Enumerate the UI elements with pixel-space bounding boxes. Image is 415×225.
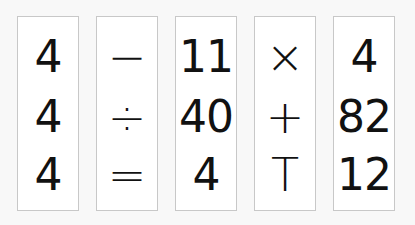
card-1: 4 4 4 <box>17 16 79 211</box>
card-3: 11 40 4 <box>175 16 237 211</box>
card-3-row-3: 4 <box>176 145 236 205</box>
card-3-row-2: 40 <box>176 87 236 147</box>
minus-symbol: − <box>97 27 157 87</box>
card-5-row-3: 12 <box>334 145 394 205</box>
card-1-row-3: 4 <box>18 145 78 205</box>
card-5-row-2: 82 <box>334 87 394 147</box>
equals-symbol: = <box>97 145 157 205</box>
card-5-row-1: 4 <box>334 27 394 87</box>
plus-symbol: + <box>255 87 315 147</box>
card-1-row-2: 4 <box>18 87 78 147</box>
t-symbol: T <box>255 145 315 205</box>
card-1-row-1: 4 <box>18 27 78 87</box>
multiply-symbol: × <box>255 27 315 87</box>
card-4: × + T <box>254 16 316 211</box>
card-2: − ÷ = <box>96 16 158 211</box>
card-5: 4 82 12 <box>333 16 395 211</box>
divide-symbol: ÷ <box>97 87 157 147</box>
card-3-row-1: 11 <box>176 27 236 87</box>
